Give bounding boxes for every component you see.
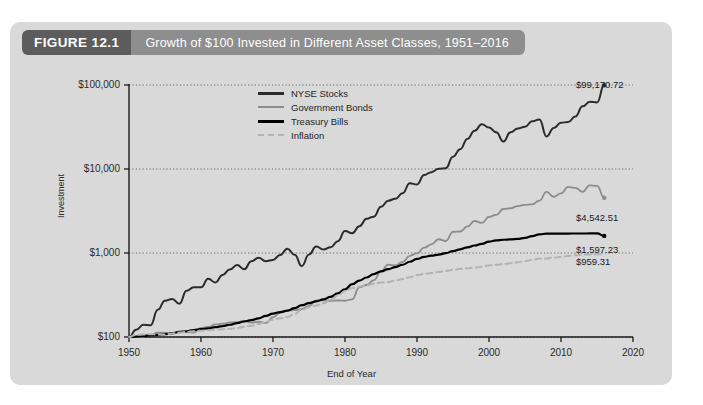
- x-axis-label: 2000: [464, 347, 514, 358]
- legend-label: Treasury Bills: [291, 116, 348, 127]
- x-axis-label: 2020: [608, 347, 658, 358]
- figure-title: Growth of $100 Invested in Different Ass…: [131, 30, 525, 55]
- legend-label: Inflation: [291, 130, 324, 141]
- figure-number-badge: FIGURE 12.1: [22, 30, 131, 55]
- x-axis-title: End of Year: [0, 368, 703, 379]
- x-axis-label: 1970: [248, 347, 298, 358]
- legend-swatch-icon: [258, 120, 284, 123]
- figure-screenshot: FIGURE 12.1 Growth of $100 Invested in D…: [0, 0, 703, 405]
- x-axis-label: 1980: [320, 347, 370, 358]
- legend-label: NYSE Stocks: [291, 88, 348, 99]
- y-axis-label: $100: [98, 331, 120, 342]
- end-value-label: $4,542.51: [576, 212, 618, 223]
- legend-item: NYSE Stocks: [258, 86, 373, 100]
- chart-legend: NYSE StocksGovernment BondsTreasury Bill…: [258, 86, 373, 142]
- legend-swatch-icon: [258, 134, 284, 136]
- legend-swatch-icon: [258, 106, 284, 108]
- end-value-label: $99,170.72: [576, 79, 624, 90]
- figure-header: FIGURE 12.1 Growth of $100 Invested in D…: [22, 30, 525, 55]
- x-axis-label: 1960: [176, 347, 226, 358]
- y-axis-title: Investment: [56, 174, 66, 218]
- end-value-label: $1,597.23: [576, 244, 618, 255]
- legend-item: Government Bonds: [258, 100, 373, 114]
- x-axis-label: 2010: [536, 347, 586, 358]
- legend-item: Inflation: [258, 128, 373, 142]
- legend-item: Treasury Bills: [258, 114, 373, 128]
- y-axis-label: $100,000: [78, 79, 120, 90]
- y-axis-label: $10,000: [84, 163, 120, 174]
- x-axis-label: 1950: [104, 347, 154, 358]
- x-axis-label: 1990: [392, 347, 442, 358]
- legend-swatch-icon: [258, 92, 284, 95]
- legend-label: Government Bonds: [291, 102, 373, 113]
- end-value-label: $959.31: [576, 256, 610, 267]
- y-axis-label: $1,000: [89, 247, 120, 258]
